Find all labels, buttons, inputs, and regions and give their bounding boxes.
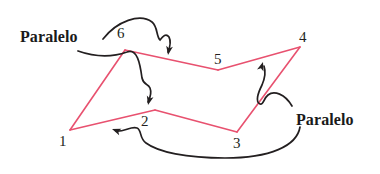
diagram-svg	[0, 0, 380, 174]
polygon-edge-3-4	[237, 47, 300, 132]
arrow-to-edge-4-5-arrowhead-icon	[257, 62, 263, 71]
vertex-label-4: 4	[299, 30, 307, 45]
polygon-layer	[70, 47, 300, 132]
arrow-to-edge-4-5-curve	[257, 66, 292, 106]
polygon-edge-4-5	[218, 47, 300, 70]
annotation-arrow-layer	[78, 18, 300, 158]
paralelo-label-paralelo-top-left: Paralelo	[20, 29, 78, 45]
vertex-label-5: 5	[214, 52, 222, 67]
arrow-to-edge-6-5-curve	[103, 18, 170, 52]
vertex-label-3: 3	[233, 136, 241, 151]
arrow-to-edge-1-2-curve	[116, 127, 300, 158]
arrow-to-edge-1-2-arrowhead-icon	[112, 129, 122, 135]
figure-canvas: 123456 ParaleloParalelo	[0, 0, 380, 174]
polygon-edge-6-1	[70, 50, 125, 130]
vertex-label-1: 1	[59, 134, 67, 149]
paralelo-label-paralelo-bottom-right: Paralelo	[296, 112, 354, 128]
vertex-label-2: 2	[141, 114, 149, 129]
arrow-to-edge-1-2-curve	[78, 51, 151, 102]
polygon-edge-2-3	[155, 110, 237, 132]
vertex-label-6: 6	[117, 26, 125, 41]
